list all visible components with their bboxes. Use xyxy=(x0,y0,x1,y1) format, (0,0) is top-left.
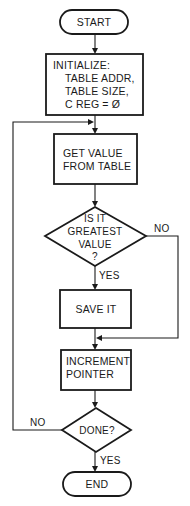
initialize-line-4: C REG = Ø xyxy=(65,98,120,110)
node-is-greatest: IS IT GREATEST VALUE ? xyxy=(45,207,146,266)
node-initialize: INITIALIZE: TABLE ADDR, TABLE SIZE, C RE… xyxy=(46,54,143,115)
greatest-line-4: ? xyxy=(92,251,98,262)
done-label: DONE? xyxy=(79,425,115,436)
flowchart: START INITIALIZE: TABLE ADDR, TABLE SIZE… xyxy=(0,0,190,506)
node-start: START xyxy=(60,10,128,34)
initialize-line-2: TABLE ADDR, xyxy=(65,72,135,84)
greatest-line-1: IS IT xyxy=(84,213,106,224)
node-get-value: GET VALUE FROM TABLE xyxy=(54,134,137,184)
get-value-line-2: FROM TABLE xyxy=(63,160,131,172)
initialize-line-1: INITIALIZE: xyxy=(53,59,110,71)
arrowhead xyxy=(96,335,102,341)
initialize-line-3: TABLE SIZE, xyxy=(65,85,129,97)
get-value-line-1: GET VALUE xyxy=(63,147,123,159)
save-it-label: SAVE IT xyxy=(76,303,117,315)
arrowhead xyxy=(92,402,98,408)
arrowhead xyxy=(88,119,94,125)
greatest-yes-label: YES xyxy=(99,270,120,281)
done-no-label: NO xyxy=(30,417,45,428)
done-yes-label: YES xyxy=(100,455,121,466)
end-label: END xyxy=(86,478,109,490)
arrowhead xyxy=(92,48,98,54)
node-done: DONE? xyxy=(62,408,131,452)
increment-line-1: INCREMENT xyxy=(66,355,131,367)
start-label: START xyxy=(77,16,112,28)
node-increment: INCREMENT POINTER xyxy=(61,350,131,390)
node-save-it: SAVE IT xyxy=(60,290,131,328)
greatest-no-label: NO xyxy=(154,223,169,234)
increment-line-2: POINTER xyxy=(66,368,114,380)
greatest-line-3: VALUE xyxy=(78,239,111,250)
node-end: END xyxy=(63,472,131,496)
greatest-line-2: GREATEST xyxy=(68,226,123,237)
